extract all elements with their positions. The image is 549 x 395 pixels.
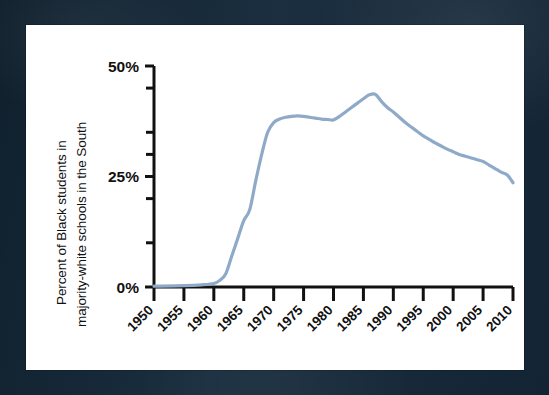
x-tick-label: 2000 <box>423 303 455 335</box>
y-tick-label: 50% <box>108 58 139 75</box>
x-tick-label: 1960 <box>184 303 216 335</box>
x-tick-label: 2005 <box>453 302 485 334</box>
y-axis <box>145 66 154 287</box>
y-tick-label: 25% <box>108 168 139 185</box>
x-axis <box>154 287 513 301</box>
chart-card: Percent of Black students in majority-wh… <box>26 25 524 370</box>
x-tick-label: 1980 <box>304 303 336 335</box>
x-tick-label: 1970 <box>244 303 276 335</box>
x-tick-label: 1965 <box>214 302 246 334</box>
x-tick-label: 1955 <box>154 302 186 334</box>
line-chart: 50%25%0% 1950195519601965197019751980198… <box>26 25 524 370</box>
x-tick-label: 1995 <box>394 302 426 334</box>
y-tick-labels: 50%25%0% <box>108 58 139 296</box>
x-tick-labels: 1950195519601965197019751980198519901995… <box>124 302 515 334</box>
y-tick-label: 0% <box>117 279 140 296</box>
data-line <box>154 94 513 286</box>
x-tick-label: 1990 <box>364 303 396 335</box>
x-tick-label: 1985 <box>334 302 366 334</box>
screenshot-root: Percent of Black students in majority-wh… <box>0 0 549 395</box>
x-tick-label: 1950 <box>124 303 156 335</box>
x-tick-label: 1975 <box>274 302 306 334</box>
data-series-group <box>154 94 513 286</box>
x-tick-label: 2010 <box>483 303 515 335</box>
